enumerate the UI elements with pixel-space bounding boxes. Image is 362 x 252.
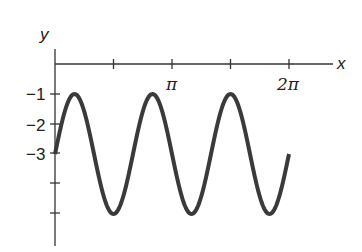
- x-tick-label-pi: π: [165, 74, 178, 94]
- y-tick-label-neg3: −3: [26, 145, 45, 164]
- x-tick-label-2pi: 2π: [276, 74, 300, 94]
- y-axis-label: y: [39, 25, 50, 44]
- y-tick-label-neg2: −2: [26, 116, 45, 135]
- x-axis-label: x: [336, 54, 346, 73]
- y-tick-label-neg1: −1: [26, 85, 45, 104]
- sine-curve: [55, 94, 289, 214]
- sine-graph: y x π 2π −1 −2 −3: [0, 0, 362, 252]
